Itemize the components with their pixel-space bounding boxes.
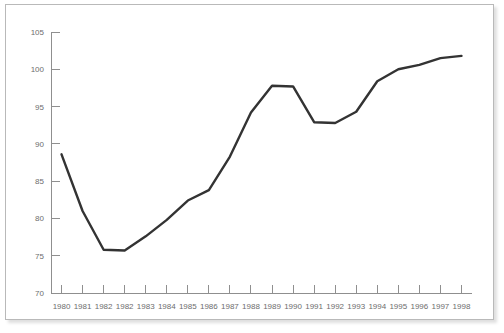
y-tick-label: 105 [31,28,45,37]
x-tick-label: 1994 [368,302,386,311]
x-tick-label: 1982 [95,302,113,311]
x-tick-label: 1993 [347,302,365,311]
y-tick-label: 70 [35,289,44,298]
x-tick-label: 1998 [453,302,471,311]
x-tick-label: 1989 [263,302,281,311]
x-tick-label: 1983 [137,302,155,311]
x-tick-label: 1991 [305,302,323,311]
data-series-line [62,56,462,251]
chart-frame: 707580859095100105 198019811982198219831… [5,4,494,320]
y-tick-label: 90 [35,140,44,149]
x-tick-labels: 1980198119821982198319841985198619871988… [53,302,471,311]
x-tick-label: 1990 [284,302,302,311]
figure-root: 707580859095100105 198019811982198219831… [0,0,504,333]
x-tick-label: 1987 [221,302,239,311]
x-tick-label: 1992 [326,302,344,311]
x-tick-label: 1982 [116,302,134,311]
x-tick-label: 1988 [242,302,260,311]
x-tick-label: 1985 [179,302,197,311]
y-tick-label: 75 [35,252,44,261]
y-tick-label: 95 [35,103,44,112]
y-tick-labels: 707580859095100105 [31,28,45,298]
x-axis [51,285,472,293]
x-tick-label: 1995 [389,302,407,311]
y-tick-label: 100 [31,65,45,74]
y-axis [51,32,60,293]
x-tick-label: 1981 [74,302,92,311]
x-tick-label: 1997 [432,302,450,311]
x-tick-label: 1986 [200,302,218,311]
y-tick-label: 80 [35,214,44,223]
x-tick-label: 1984 [158,302,176,311]
y-tick-label: 85 [35,177,44,186]
x-tick-label: 1980 [53,302,71,311]
line-chart: 707580859095100105 198019811982198219831… [6,5,493,319]
x-tick-label: 1996 [410,302,428,311]
